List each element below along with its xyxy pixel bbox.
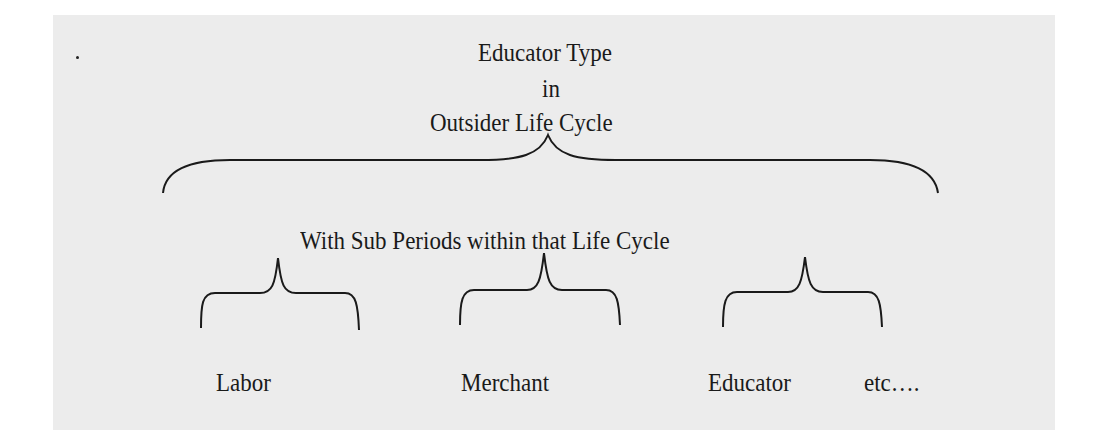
subtitle: With Sub Periods within that Life Cycle — [300, 228, 670, 253]
sub-period-educator: Educator — [708, 370, 791, 395]
brace-educator — [723, 257, 882, 327]
main-brace — [163, 135, 938, 193]
continuation-text: etc…. — [864, 370, 920, 395]
brace-merchant — [460, 253, 620, 325]
sub-period-labor: Labor — [216, 370, 271, 395]
brace-labor — [201, 258, 359, 330]
sub-period-merchant: Merchant — [461, 370, 549, 395]
braces — [0, 0, 1107, 448]
